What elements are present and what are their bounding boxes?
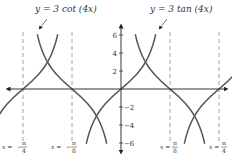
asymptote-labels: x = − π 4 x = − π 8 x = π 8 x = π 4 [2,139,227,154]
svg-text:8: 8 [72,147,76,154]
svg-text:2: 2 [113,68,117,76]
svg-text:−2: −2 [124,104,134,112]
label-arrows [40,19,167,28]
svg-text:4: 4 [113,50,118,58]
svg-text:8: 8 [173,147,177,154]
svg-text:6: 6 [113,32,118,40]
svg-text:x =: x = [209,143,219,150]
label-neg-pi-8: x = − π 8 [51,139,77,154]
svg-text:x =: x = [160,143,170,150]
tan-label: y = 3 tan (4x) [149,4,213,14]
svg-text:π: π [22,139,26,146]
label-pi-8: x = π 8 [160,139,178,154]
label-pi-4: x = π 4 [209,139,227,154]
svg-text:−6: −6 [124,140,135,148]
svg-text:x =: x = [2,143,12,150]
svg-text:π: π [173,139,177,146]
svg-text:−4: −4 [124,122,135,130]
svg-text:π: π [72,139,76,146]
svg-text:x =: x = [51,143,61,150]
y-tick-labels: 6 4 2 −2 −4 −6 [113,32,135,148]
label-neg-pi-4: x = − π 4 [2,139,27,154]
cot-label: y = 3 cot (4x) [34,4,97,14]
svg-text:π: π [222,139,226,146]
chart: 6 4 2 −2 −4 −6 y = 3 cot (4x) y = 3 tan … [0,0,232,159]
svg-text:−: − [66,143,71,150]
svg-text:4: 4 [22,147,26,154]
svg-text:4: 4 [222,147,226,154]
